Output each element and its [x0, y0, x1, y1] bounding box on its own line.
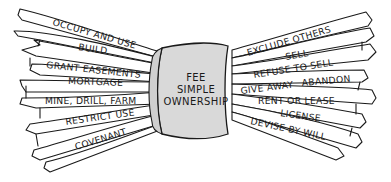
center-label-simple: SIMPLE [177, 84, 215, 95]
bundle-of-rights-diagram: OCCUPY AND USE BUILD GRANT EASEMENTS MOR… [0, 0, 391, 182]
center-label-ownership: OWNERSHIP [164, 96, 229, 107]
right-label-mine-drill-farm: MINE, DRILL, FARM [45, 95, 137, 106]
center-band: FEE SIMPLE OWNERSHIP [149, 43, 228, 138]
right-label-rent-or-lease: RENT OR LEASE [258, 95, 335, 106]
right-label-mortgage: MORTGAGE [68, 75, 123, 88]
center-label-fee: FEE [186, 72, 206, 83]
